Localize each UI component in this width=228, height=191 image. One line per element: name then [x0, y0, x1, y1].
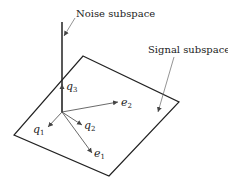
q1-label: q1: [33, 124, 45, 137]
signal-subspace-label: Signal subspace: [148, 45, 228, 55]
e2-label: e2: [121, 97, 132, 110]
q1-vector: [48, 112, 62, 127]
e1-label: e1: [94, 148, 105, 161]
e2-vector: [62, 102, 118, 112]
q2-vector: [62, 112, 82, 125]
q3-label: q3: [66, 81, 78, 94]
noise-subspace-label: Noise subspace: [76, 9, 155, 19]
q2-label: q2: [84, 120, 96, 133]
diagram-graphics: [0, 0, 228, 191]
subspace-diagram: Noise subspace Signal subspace q3 e2 q2 …: [0, 0, 228, 191]
noise-pointer-arrow: [64, 18, 75, 36]
signal-pointer-arrow: [158, 57, 174, 112]
